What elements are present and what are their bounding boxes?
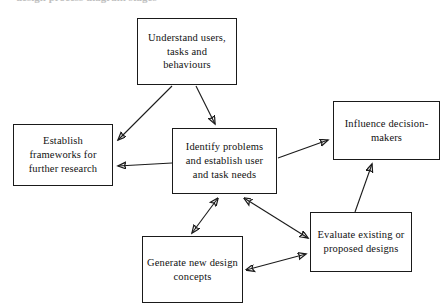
edge-understand-to-establish — [118, 86, 172, 140]
edge-identify-generate — [192, 198, 218, 233]
node-influence-decision-makers-label: Influence decision-makers — [338, 117, 435, 145]
node-understand-users[interactable]: Understand users, tasks and behaviours — [137, 18, 237, 85]
node-evaluate-designs-label: Evaluate existing or proposed designs — [315, 228, 407, 256]
node-understand-users-label: Understand users, tasks and behaviours — [142, 31, 232, 73]
node-identify-problems-label: Identify problems and establish user and… — [177, 140, 272, 182]
edge-identify-evaluate — [244, 198, 308, 238]
diagram-canvas: design process diagram stages Understand — [0, 0, 447, 308]
edge-identify-to-influence — [278, 140, 328, 158]
node-generate-concepts-label: Generate new design concepts — [147, 256, 238, 284]
node-evaluate-designs[interactable]: Evaluate existing or proposed designs — [310, 212, 412, 272]
node-establish-frameworks[interactable]: Establish frameworks for further researc… — [13, 124, 113, 186]
node-establish-frameworks-label: Establish frameworks for further researc… — [18, 134, 108, 176]
node-identify-problems[interactable]: Identify problems and establish user and… — [172, 128, 277, 194]
edge-identify-to-establish — [118, 163, 172, 166]
edge-generate-evaluate — [246, 254, 306, 270]
node-generate-concepts[interactable]: Generate new design concepts — [142, 236, 243, 303]
node-influence-decision-makers[interactable]: Influence decision-makers — [333, 101, 440, 160]
edge-evaluate-to-influence — [355, 164, 372, 212]
edge-understand-to-identify — [196, 86, 215, 124]
